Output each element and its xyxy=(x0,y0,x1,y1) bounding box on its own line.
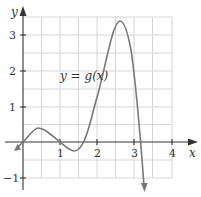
y-axis-arrow-icon xyxy=(20,6,27,16)
y-tick-2: 2 xyxy=(9,65,16,78)
function-graph: 1 2 3 4 3 2 1 −1 x y y = g(x) xyxy=(0,0,201,197)
axes xyxy=(5,6,198,190)
x-axis-label: x xyxy=(189,146,196,160)
x-tick-4: 4 xyxy=(169,147,176,160)
curve-g xyxy=(17,21,144,186)
curve-end-arrow-icon xyxy=(141,183,148,192)
y-axis-label: y xyxy=(10,5,18,19)
x-tick-2: 2 xyxy=(94,147,101,160)
y-tick-3: 3 xyxy=(9,29,16,42)
x-tick-3: 3 xyxy=(131,147,138,160)
x-axis-arrow-icon xyxy=(188,139,198,146)
y-tick-minus1: −1 xyxy=(3,172,19,185)
x-tick-1: 1 xyxy=(57,147,64,160)
y-tick-1: 1 xyxy=(9,101,16,114)
curve-label: y = g(x) xyxy=(59,69,109,83)
